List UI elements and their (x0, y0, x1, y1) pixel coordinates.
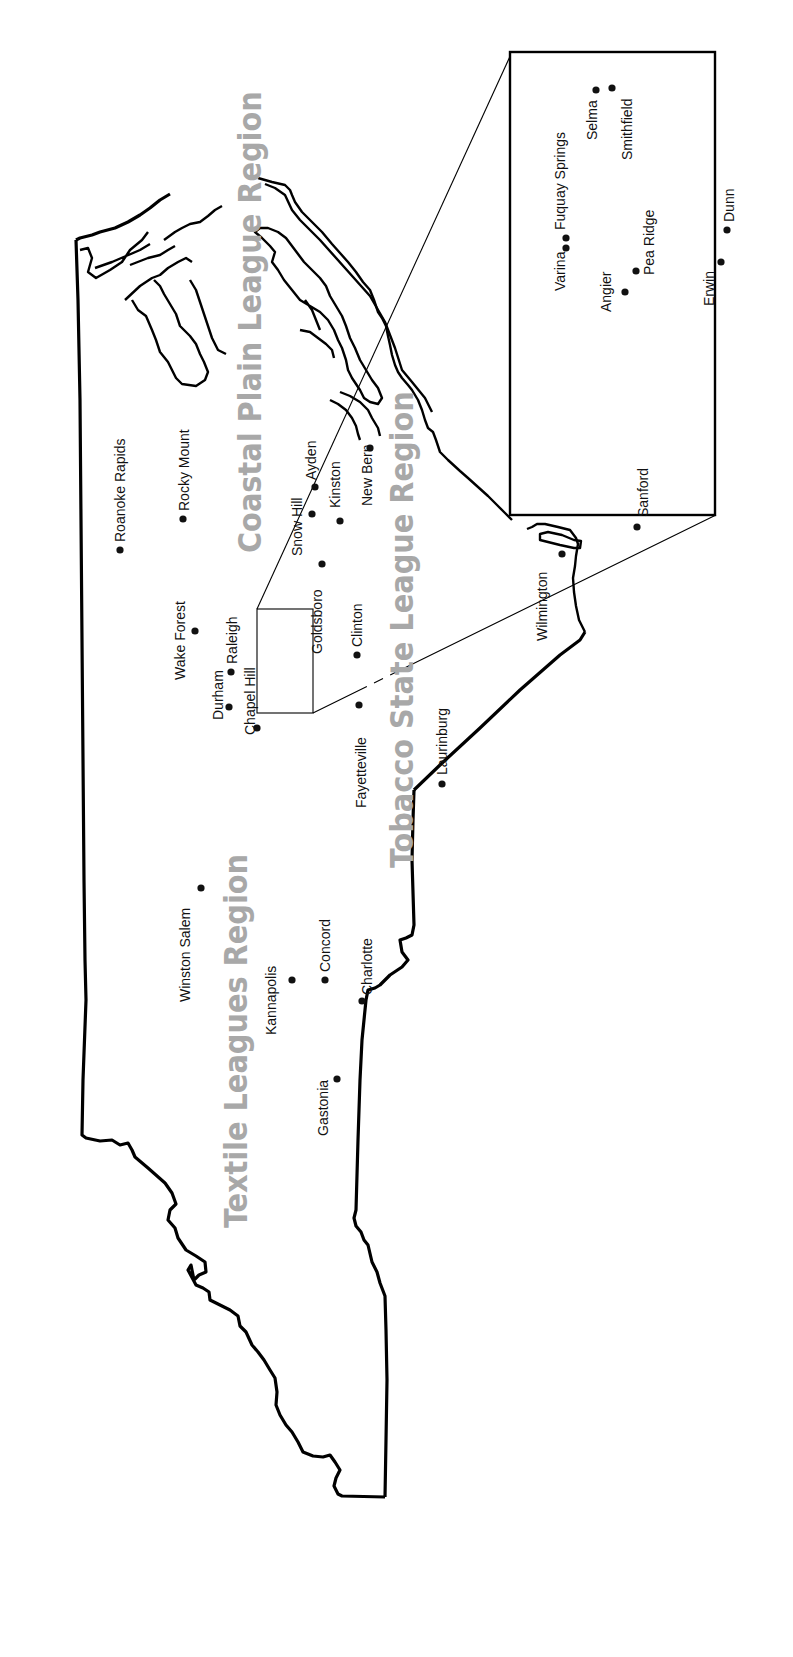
city-label-rocky-mount: Rocky Mount (176, 429, 192, 511)
city-dot-durham[interactable] (225, 703, 232, 710)
inset-dot-smithfield[interactable] (608, 84, 615, 91)
city-dot-winston-salem[interactable] (197, 884, 204, 891)
inset-dot-varina[interactable] (562, 244, 569, 251)
city-label-roanoke-rapids: Roanoke Rapids (112, 438, 128, 542)
region-label-coastal: Coastal Plain League Region (231, 91, 269, 553)
inset-dot-dunn[interactable] (723, 226, 730, 233)
inset-dot-selma[interactable] (592, 86, 599, 93)
city-label-snow-hill: Snow Hill (289, 498, 305, 556)
city-label-wilmington: Wilmington (534, 572, 550, 641)
inset-label-angier: Angier (598, 271, 614, 312)
inset-dot-erwin[interactable] (717, 258, 724, 265)
inset-source-box (257, 609, 313, 713)
city-label-winston-salem: Winston Salem (177, 908, 193, 1002)
inset-dot-fuquay-springs[interactable] (562, 234, 569, 241)
city-label-ayden: Ayden (303, 441, 319, 480)
inset-label-pea-ridge: Pea Ridge (641, 209, 657, 275)
city-label-kannapolis: Kannapolis (263, 966, 279, 1035)
state-outline (76, 178, 585, 1497)
city-label-goldsboro: Goldsboro (309, 589, 325, 654)
city-dot-snow-hill[interactable] (308, 510, 315, 517)
city-label-fayetteville: Fayetteville (353, 737, 369, 808)
city-label-new-bern: New Bern (359, 445, 375, 506)
city-dot-clinton[interactable] (353, 651, 360, 658)
city-label-durham: Durham (210, 670, 226, 720)
leader-line-bottom (313, 515, 716, 713)
nc-league-map: Coastal Plain League Region Tobacco Stat… (0, 0, 793, 1657)
city-dot-kinston[interactable] (336, 517, 343, 524)
city-dot-goldsboro[interactable] (318, 560, 325, 567)
inset-label-selma: Selma (584, 100, 600, 140)
cape-fear (540, 532, 581, 548)
inset-label-smithfield: Smithfield (619, 99, 635, 160)
inset-label-fuquay-springs: Fuquay Springs (552, 132, 568, 230)
inset-dot-sanford[interactable] (633, 523, 640, 530)
region-label-tobacco: Tobacco State League Region (383, 391, 421, 868)
region-labels: Coastal Plain League Region Tobacco Stat… (217, 91, 421, 1228)
city-label-chapel-hill: Chapel Hill (242, 667, 258, 735)
city-label-laurinburg: Laurinburg (434, 708, 450, 775)
city-dot-concord[interactable] (321, 976, 328, 983)
inset-label-erwin: Erwin (701, 271, 717, 306)
city-dot-kannapolis[interactable] (288, 976, 295, 983)
inset-label-sanford: Sanford (635, 468, 651, 517)
outer-banks (265, 184, 432, 412)
city-dot-wake-forest[interactable] (191, 627, 198, 634)
city-dot-rocky-mount[interactable] (179, 515, 186, 522)
city-label-wake-forest: Wake Forest (172, 601, 188, 680)
city-dot-ayden[interactable] (311, 483, 318, 490)
city-label-concord: Concord (317, 919, 333, 972)
south-border-west (354, 790, 414, 1497)
city-label-clinton: Clinton (349, 603, 365, 647)
city-label-raleigh: Raleigh (224, 617, 240, 664)
city-label-kinston: Kinston (327, 461, 343, 508)
city-dot-wilmington[interactable] (558, 550, 565, 557)
city-dot-raleigh[interactable] (227, 668, 234, 675)
northeast-border (76, 194, 170, 240)
city-dot-gastonia[interactable] (333, 1075, 340, 1082)
inset-label-dunn: Dunn (721, 189, 737, 222)
city-dot-fayetteville[interactable] (355, 701, 362, 708)
city-dot-charlotte[interactable] (358, 997, 365, 1004)
city-dot-roanoke-rapids[interactable] (116, 546, 123, 553)
cities: Roanoke Rapids Rocky Mount Wake Forest R… (112, 429, 566, 1136)
inset-dot-pea-ridge[interactable] (632, 267, 639, 274)
city-label-gastonia: Gastonia (315, 1080, 331, 1136)
region-label-textile: Textile Leagues Region (217, 854, 255, 1228)
city-dot-laurinburg[interactable] (438, 780, 445, 787)
inset-dot-angier[interactable] (621, 288, 628, 295)
inset-label-varina: Varina (552, 251, 568, 291)
city-label-charlotte: Charlotte (359, 938, 375, 995)
